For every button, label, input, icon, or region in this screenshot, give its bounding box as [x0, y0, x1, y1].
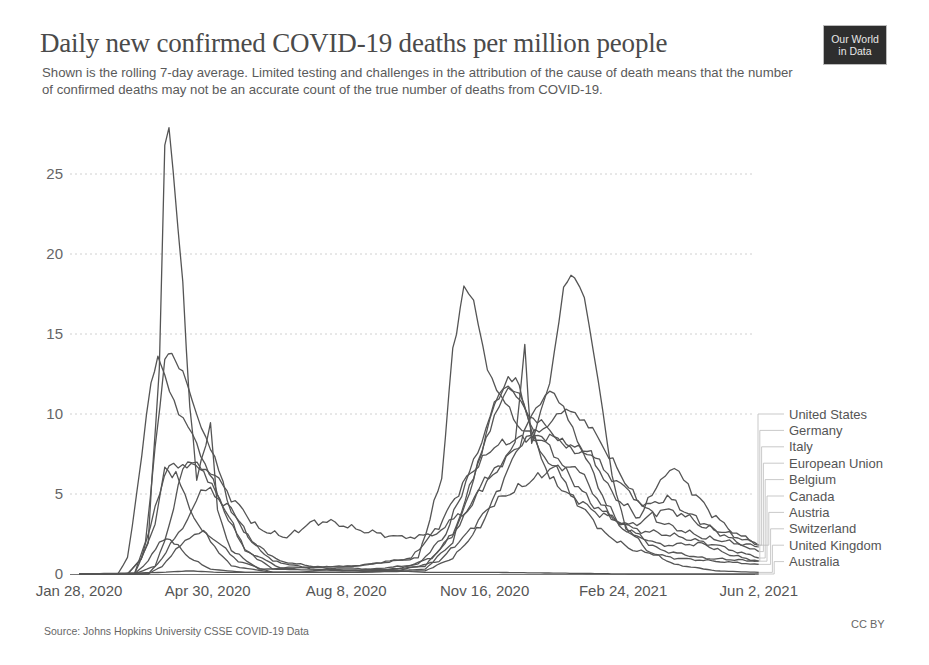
legend-connector	[759, 480, 784, 558]
y-tick-label: 0	[55, 565, 63, 582]
series-line-italy[interactable]	[79, 356, 759, 574]
y-tick-label: 5	[55, 485, 63, 502]
series-line-belgium[interactable]	[79, 128, 759, 574]
legend-connector	[759, 463, 784, 551]
x-axis: Jan 28, 2020Apr 30, 2020Aug 8, 2020Nov 1…	[36, 575, 798, 600]
y-tick-label: 25	[46, 165, 63, 182]
x-tick-label: Jun 2, 2021	[720, 582, 798, 599]
series-line-united-kingdom[interactable]	[79, 275, 759, 574]
legend-label-austria[interactable]: Austria	[789, 505, 830, 520]
license-label[interactable]: CC BY	[851, 618, 885, 630]
y-axis-ticks: 0510152025	[46, 165, 63, 582]
series-lines	[79, 128, 759, 574]
x-tick-label: Nov 16, 2020	[440, 582, 529, 599]
legend-label-italy[interactable]: Italy	[789, 439, 813, 454]
y-tick-label: 15	[46, 325, 63, 342]
legend-connector	[759, 529, 784, 565]
legend: United StatesGermanyItalyEuropean UnionB…	[758, 407, 883, 575]
y-tick-label: 20	[46, 245, 63, 262]
y-tick-label: 10	[46, 405, 63, 422]
x-tick-label: Aug 8, 2020	[306, 582, 387, 599]
source-note[interactable]: Source: Johns Hopkins University CSSE CO…	[44, 625, 309, 637]
legend-label-germany[interactable]: Germany	[789, 423, 843, 438]
legend-label-united-states[interactable]: United States	[789, 407, 868, 422]
legend-label-canada[interactable]: Canada	[789, 489, 835, 504]
legend-connector	[759, 545, 784, 572]
line-chart: 0510152025 Jan 28, 2020Apr 30, 2020Aug 8…	[0, 0, 929, 665]
legend-label-switzerland[interactable]: Switzerland	[789, 521, 856, 536]
x-tick-label: Jan 28, 2020	[36, 582, 123, 599]
legend-label-united-kingdom[interactable]: United Kingdom	[789, 538, 882, 553]
x-tick-label: Apr 30, 2020	[165, 582, 251, 599]
legend-label-european-union[interactable]: European Union	[789, 456, 883, 471]
legend-label-belgium[interactable]: Belgium	[789, 472, 836, 487]
legend-label-australia[interactable]: Australia	[789, 554, 840, 569]
y-gridlines	[70, 174, 755, 494]
x-tick-label: Feb 24, 2021	[579, 582, 667, 599]
